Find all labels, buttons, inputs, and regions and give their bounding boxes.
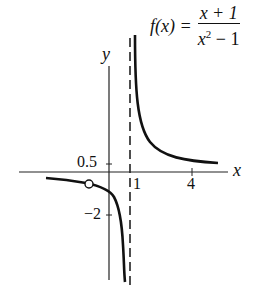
y-tick-label-0.5: 0.5 — [77, 153, 97, 171]
title-numerator: x + 1 — [198, 4, 240, 24]
function-title: f(x) = x + 1 x2 − 1 — [150, 4, 240, 49]
x-axis-label: x — [233, 160, 241, 181]
right-branch-curve — [135, 35, 218, 163]
y-tick-label-minus-2: −2 — [84, 205, 101, 223]
x-tick-label-4: 4 — [187, 175, 195, 193]
x-tick-label-1: 1 — [133, 175, 141, 193]
left-branch-curve — [46, 178, 125, 282]
title-fraction: x + 1 x2 − 1 — [198, 4, 240, 49]
y-axis-label: y — [102, 44, 110, 65]
title-denominator: x2 − 1 — [198, 24, 240, 49]
removable-discontinuity-hole — [85, 180, 93, 188]
title-lhs: f(x) = — [150, 16, 192, 37]
